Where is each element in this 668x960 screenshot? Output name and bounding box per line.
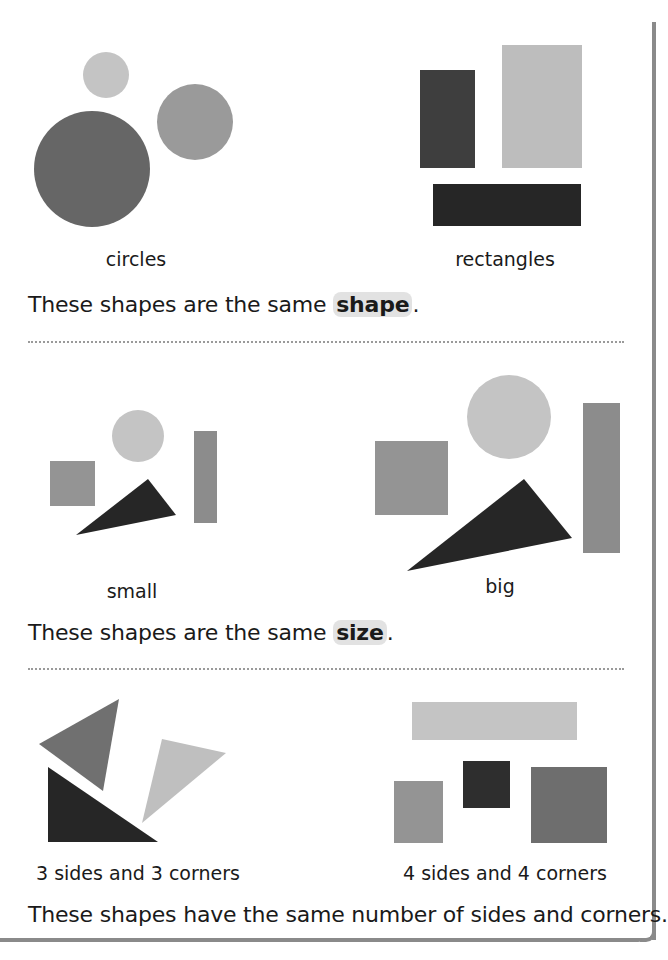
dotted-divider-2 (28, 668, 624, 670)
big-label: big (465, 575, 535, 597)
sentence-suffix: . (387, 620, 394, 645)
sides-corners-sentence: These shapes have the same number of sid… (28, 902, 668, 927)
dark-square (463, 761, 510, 808)
sentence-prefix: These shapes are the same (28, 620, 333, 645)
three-sides-label: 3 sides and 3 corners (36, 862, 236, 884)
big-circle (467, 375, 551, 459)
big-square (375, 441, 448, 515)
large-square (531, 767, 607, 843)
big-rectangle (583, 403, 620, 553)
highlight-word-size: size (333, 620, 387, 645)
small-label: small (92, 580, 172, 602)
gray-rectangle (394, 781, 443, 843)
wide-light-rectangle (412, 702, 577, 740)
same-size-sentence: These shapes are the same size. (28, 620, 393, 645)
four-sides-label: 4 sides and 4 corners (400, 862, 610, 884)
